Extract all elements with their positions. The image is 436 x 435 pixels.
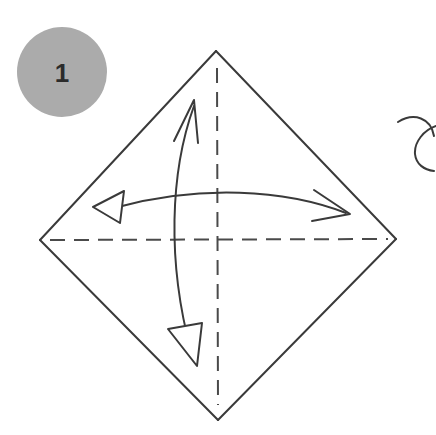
origami-step-diagram: 1 bbox=[0, 0, 436, 435]
step-badge-label: 1 bbox=[55, 58, 69, 88]
step-number-badge: 1 bbox=[17, 27, 107, 117]
diagram-canvas: 1 bbox=[0, 0, 436, 435]
